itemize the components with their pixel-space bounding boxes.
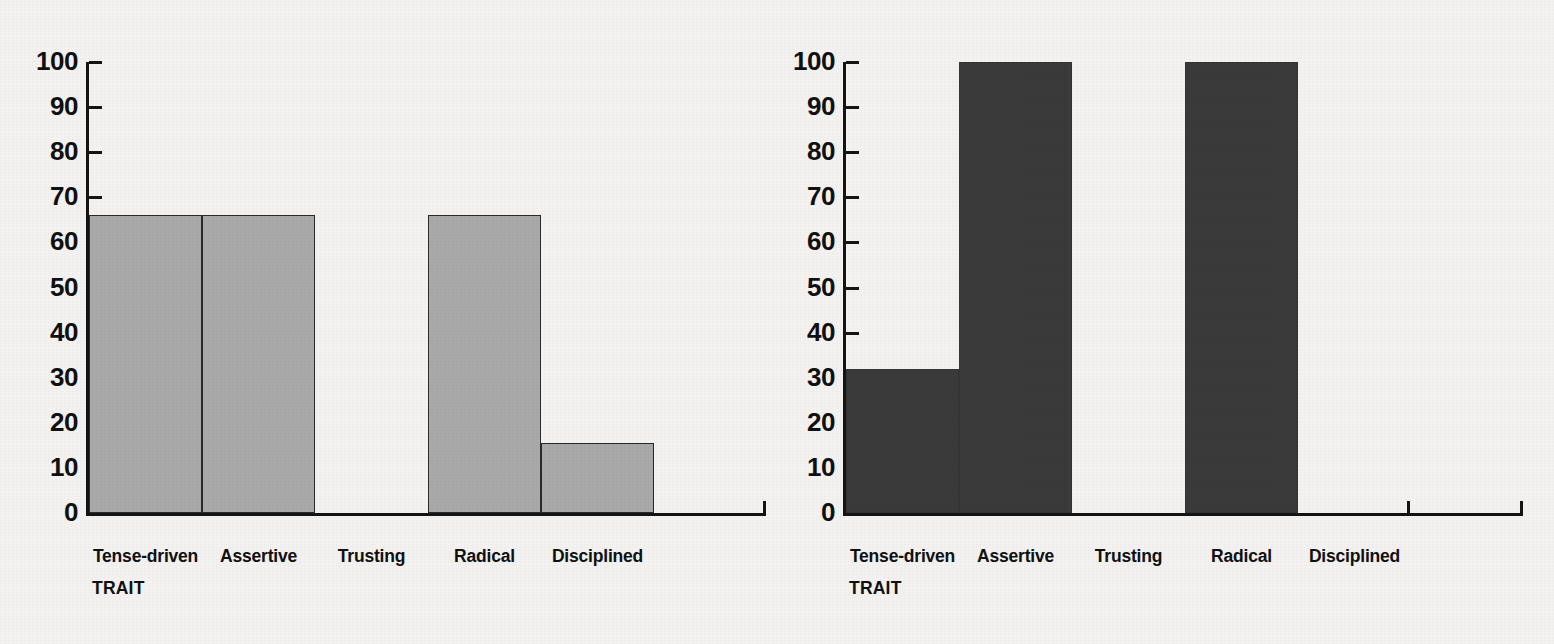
y-axis-tick <box>846 106 859 109</box>
bar-assertive <box>959 62 1072 513</box>
bar-tense-driven <box>89 215 202 513</box>
figure-root: 0102030405060708090100Tense-drivenAssert… <box>0 0 1554 644</box>
y-axis-tick <box>89 106 102 109</box>
y-axis-tick-label: 0 <box>0 499 78 525</box>
x-axis-label-disciplined: Disciplined <box>552 546 643 567</box>
y-axis-tick <box>846 61 859 64</box>
y-axis-tick-label: 30 <box>0 364 78 390</box>
y-axis-tick <box>846 196 859 199</box>
x-axis-label-tense-driven: Tense-driven <box>850 546 955 567</box>
bar-radical <box>428 215 541 513</box>
y-axis-tick-label: 80 <box>757 138 835 164</box>
y-axis-tick-label: 20 <box>757 409 835 435</box>
chart-panel-right: 0102030405060708090100Tense-drivenAssert… <box>777 0 1554 644</box>
x-axis-line <box>843 513 1523 516</box>
y-axis-tick-label: 100 <box>0 48 78 74</box>
y-axis-tick-label: 80 <box>0 138 78 164</box>
y-axis-tick-label: 30 <box>757 364 835 390</box>
bar-tense-driven <box>846 369 959 513</box>
x-axis-label-radical: Radical <box>454 546 515 567</box>
y-axis-tick <box>846 332 859 335</box>
x-axis-label-tense-driven: Tense-driven <box>93 546 198 567</box>
y-axis-tick <box>89 151 102 154</box>
y-axis-tick-label: 50 <box>0 274 78 300</box>
y-axis-tick <box>89 196 102 199</box>
bar-radical <box>1185 62 1298 513</box>
y-axis-tick-label: 0 <box>757 499 835 525</box>
x-axis-title: TRAIT <box>849 578 902 599</box>
x-axis-label-assertive: Assertive <box>220 546 297 567</box>
x-axis-tick <box>1407 501 1410 513</box>
y-axis-tick <box>89 61 102 64</box>
y-axis-tick-label: 10 <box>0 454 78 480</box>
x-axis-title: TRAIT <box>92 578 145 599</box>
x-axis-label-disciplined: Disciplined <box>1309 546 1400 567</box>
y-axis-tick-label: 100 <box>757 48 835 74</box>
x-axis-label-trusting: Trusting <box>338 546 405 567</box>
x-axis-line <box>86 513 766 516</box>
chart-panel-left: 0102030405060708090100Tense-drivenAssert… <box>0 0 777 644</box>
y-axis-tick-label: 10 <box>757 454 835 480</box>
y-axis-tick-label: 90 <box>757 93 835 119</box>
x-axis-label-assertive: Assertive <box>977 546 1054 567</box>
bar-assertive <box>202 215 315 513</box>
x-axis-label-trusting: Trusting <box>1095 546 1162 567</box>
bar-disciplined <box>541 443 654 513</box>
y-axis-tick-label: 70 <box>0 183 78 209</box>
y-axis-tick-label: 50 <box>757 274 835 300</box>
y-axis-tick <box>846 287 859 290</box>
y-axis-tick-label: 60 <box>757 228 835 254</box>
y-axis-tick-label: 60 <box>0 228 78 254</box>
y-axis-tick <box>846 151 859 154</box>
x-axis-tick <box>1520 501 1523 513</box>
y-axis-tick-label: 90 <box>0 93 78 119</box>
y-axis-tick-label: 40 <box>0 319 78 345</box>
y-axis-tick-label: 70 <box>757 183 835 209</box>
x-axis-label-radical: Radical <box>1211 546 1272 567</box>
y-axis-tick-label: 20 <box>0 409 78 435</box>
y-axis-tick <box>846 241 859 244</box>
y-axis-tick-label: 40 <box>757 319 835 345</box>
